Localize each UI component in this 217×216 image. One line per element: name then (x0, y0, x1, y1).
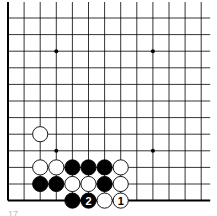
white-stone (33, 160, 48, 175)
white-stone (65, 176, 80, 191)
black-stone (81, 160, 96, 175)
white-stone (81, 176, 96, 191)
white-stone (33, 127, 48, 142)
move-number-label: 2 (85, 195, 91, 207)
black-stone (97, 160, 112, 175)
figure-caption: 17 (8, 210, 18, 216)
white-stone (113, 160, 128, 175)
white-stone: 1 (113, 193, 128, 208)
star-point (54, 49, 58, 53)
move-number-label: 1 (118, 195, 124, 207)
star-point (151, 149, 155, 153)
go-board: 21 (0, 0, 217, 216)
star-point (54, 149, 58, 153)
black-stone (65, 160, 80, 175)
stones: 21 (33, 127, 129, 209)
black-stone (33, 176, 48, 191)
star-point (151, 49, 155, 53)
white-stone (97, 193, 112, 208)
white-stone (49, 160, 64, 175)
black-stone: 2 (81, 193, 96, 208)
black-stone (97, 176, 112, 191)
black-stone (49, 176, 64, 191)
black-stone (65, 193, 80, 208)
white-stone (113, 176, 128, 191)
